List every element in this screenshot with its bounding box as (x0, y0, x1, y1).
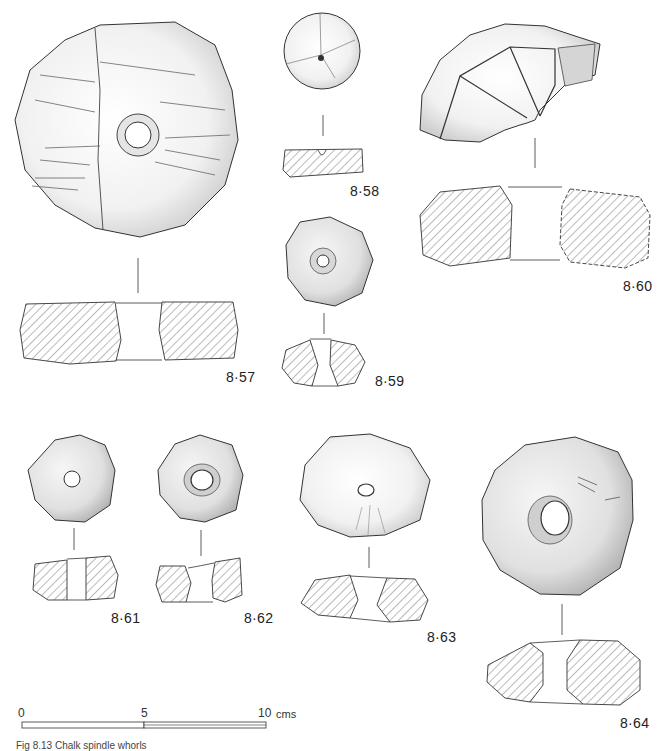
label-8-61: 8·61 (111, 610, 140, 626)
whorl-8-64-plan (482, 437, 633, 595)
whorl-8-61-plan (28, 435, 115, 522)
label-8-60: 8·60 (623, 278, 652, 294)
whorl-8-63-plan (300, 434, 430, 537)
whorl-8-60-fragment-plan (420, 24, 600, 142)
whorl-8-58-section (283, 149, 363, 177)
scale-tick-0: 0 (18, 706, 25, 720)
label-8-63: 8·63 (427, 629, 456, 645)
whorl-8-58-plan (284, 13, 360, 89)
whorl-8-62-plan (158, 435, 243, 522)
whorl-8-62-section (156, 558, 242, 602)
scale-unit: cms (276, 708, 296, 720)
whorl-8-59-plan (286, 217, 373, 306)
label-8-64: 8·64 (620, 715, 649, 731)
whorl-8-63-section (301, 575, 428, 622)
whorl-8-57-section (20, 302, 238, 364)
scale-tick-10: 10 (258, 706, 271, 720)
whorl-8-61-section (33, 556, 118, 600)
whorl-8-60-section (420, 186, 650, 268)
scale-bar (22, 722, 266, 728)
figure-caption: Fig 8.13 Chalk spindle whorls (16, 740, 147, 751)
label-8-62: 8·62 (244, 610, 273, 626)
whorl-8-59-section (282, 339, 365, 386)
label-8-59: 8·59 (375, 373, 404, 389)
label-8-58: 8·58 (350, 183, 379, 199)
label-8-57: 8·57 (226, 369, 255, 385)
whorl-8-57-plan (15, 22, 238, 237)
whorl-8-64-section (487, 640, 640, 705)
scale-tick-5: 5 (141, 706, 148, 720)
